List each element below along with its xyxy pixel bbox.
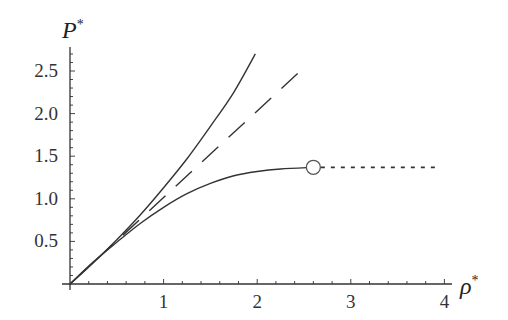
upper-solid-curve: [70, 54, 255, 284]
y-tick-label: 1.0: [34, 188, 58, 209]
chart: 12340.51.01.52.02.5 P* ρ*: [0, 0, 508, 320]
x-tick-label: 3: [346, 291, 356, 312]
lower-solid-curve: [70, 167, 313, 284]
y-tick-label: 2.5: [34, 60, 58, 81]
x-tick-label: 2: [252, 291, 262, 312]
axis-tick-labels: 12340.51.01.52.02.5: [34, 60, 449, 312]
y-tick-label: 1.5: [34, 145, 58, 166]
y-axis-label: P*: [61, 17, 84, 43]
x-tick-label: 4: [440, 291, 450, 312]
x-tick-label: 1: [159, 291, 169, 312]
critical-point-circle: [306, 160, 320, 174]
data-series: [70, 54, 440, 284]
x-axis-label: ρ*: [459, 273, 479, 299]
axis-ticks: [70, 54, 444, 284]
y-tick-label: 2.0: [34, 103, 58, 124]
y-tick-label: 0.5: [34, 230, 58, 251]
